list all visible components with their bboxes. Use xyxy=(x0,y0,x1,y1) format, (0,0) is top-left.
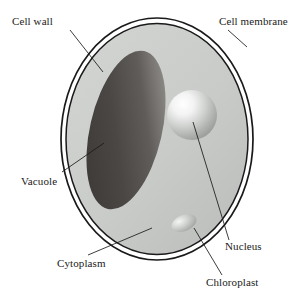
plant-cell-diagram: Cell wall Cell membrane Vacuole Cytoplas… xyxy=(0,0,303,303)
label-chloroplast: Chloroplast xyxy=(206,277,258,288)
label-cell-membrane: Cell membrane xyxy=(219,16,288,27)
label-cell-wall: Cell wall xyxy=(12,16,53,27)
nucleus-body xyxy=(167,90,217,140)
label-vacuole: Vacuole xyxy=(21,176,57,187)
cell-membrane-leader-line xyxy=(228,30,247,47)
label-cytoplasm: Cytoplasm xyxy=(57,258,106,269)
label-nucleus: Nucleus xyxy=(225,241,262,252)
cell-illustration xyxy=(0,0,303,303)
